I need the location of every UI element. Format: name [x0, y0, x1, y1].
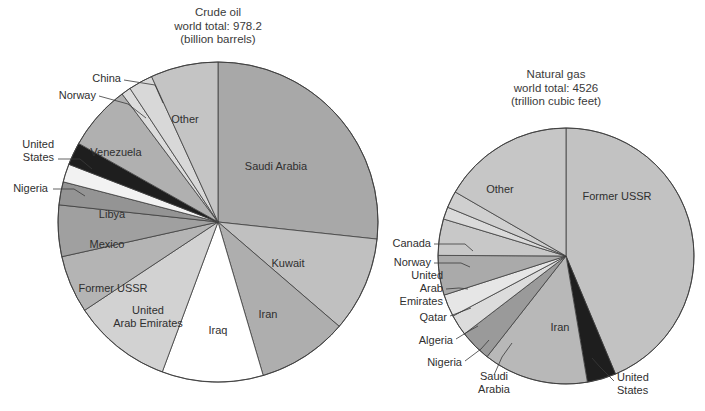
pie-label-china: China: [92, 72, 122, 84]
chart-subtitle: world total: 4526: [513, 82, 598, 94]
pie-label-united-arab-emirates: Arab Emirates: [113, 317, 183, 329]
pie-label-nigeria: Nigeria: [427, 356, 463, 368]
pie-slices: Former USSRUnited StatesIranSaudi Arabia…: [438, 128, 694, 384]
pie-label-united-states: United: [22, 138, 54, 150]
pie-label-united-arab-emirates: United: [132, 304, 164, 316]
pie-label-norway: Norway: [59, 89, 97, 101]
pie-label-nigeria: Nigeria: [13, 182, 49, 194]
pie-label-iraq: Iraq: [209, 324, 228, 336]
pie-label-united-arab-emirates: Arab: [420, 282, 443, 294]
pie-label-other: Other: [486, 183, 514, 195]
pie-label-other: Other: [171, 113, 199, 125]
pie-label-former-ussr: Former USSR: [78, 282, 147, 294]
chart-units: (trillion cubic feet): [511, 95, 601, 107]
chart-subtitle: world total: 978.2: [173, 20, 262, 32]
pie-chart-figure: Saudi ArabiaKuwaitIranIraqUnited Arab Em…: [0, 0, 705, 411]
pie-label-former-ussr: Former USSR: [582, 190, 651, 202]
pie-label-algeria: Algeria: [419, 334, 454, 346]
pie-label-saudi-arabia: Saudi Arabia: [245, 160, 308, 172]
chart-title: Crude oil: [195, 6, 241, 18]
pie-label-mexico: Mexico: [90, 238, 125, 250]
pie-label-venezuela: Venezuela: [90, 146, 142, 158]
pie-label-canada: Canada: [392, 237, 431, 249]
pie-label-qatar: Qatar: [419, 311, 447, 323]
pie-label-united-states: United: [617, 371, 649, 383]
pie-label-saudi-arabia: Saudi: [480, 370, 508, 382]
chart-title: Natural gas: [527, 68, 586, 80]
pie-label-united-states: States: [617, 384, 649, 396]
pie-label-iran: Iran: [259, 308, 278, 320]
pie-label-saudi-arabia: Arabia: [478, 383, 511, 395]
pie-label-united-arab-emirates: Emirates: [400, 295, 444, 307]
pie-label-norway: Norway: [394, 256, 432, 268]
pie-label-united-states: States: [23, 151, 55, 163]
chart-units: (billion barrels): [180, 33, 256, 45]
pie-label-iran: Iran: [551, 321, 570, 333]
pie-label-libya: Libya: [99, 208, 126, 220]
pie-label-united-arab-emirates: United: [411, 269, 443, 281]
pie-label-kuwait: Kuwait: [271, 257, 304, 269]
